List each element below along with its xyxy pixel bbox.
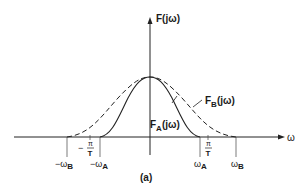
fb-label-leader <box>193 100 202 107</box>
y-axis-label: F(jω) <box>156 13 180 24</box>
omega-a-label: ωA <box>194 159 207 171</box>
fa-label: FA(jω) <box>150 119 180 133</box>
neg-omega-b-label: −ωB <box>55 159 73 171</box>
x-axis-label: ω <box>287 132 295 143</box>
pi-over-t-num: π <box>206 140 211 147</box>
omega-b-label: ωB <box>231 159 244 171</box>
omega-axis-arrow-icon <box>278 135 285 140</box>
neg-omega-a-label: −ωA <box>90 159 108 171</box>
neg-pi-over-t-den: T <box>88 149 93 158</box>
f-axis-arrow-icon <box>148 17 153 24</box>
neg-pi-over-t-sign: − <box>78 143 83 153</box>
pi-over-t-den: T <box>206 149 211 158</box>
fb-label: FB(jω) <box>205 95 235 109</box>
spectrum-diagram: F(jω) ω FB(jω) FA(jω) −ωB −ωA ωA ωB − π … <box>0 0 307 196</box>
neg-pi-over-t-num: π <box>88 140 93 147</box>
figure-caption: (a) <box>140 172 152 183</box>
